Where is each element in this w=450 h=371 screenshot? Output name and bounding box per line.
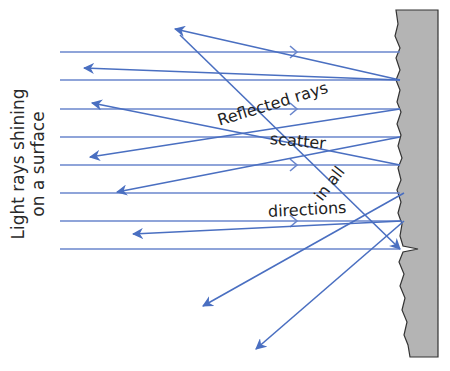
side-label: Light rays shining on a surface (8, 54, 48, 274)
diffuse-reflection-diagram (0, 0, 450, 371)
reflected-ray-arrow (133, 221, 402, 234)
reflected-rays (84, 29, 404, 349)
side-label-line2: on a surface (28, 54, 48, 274)
reflected-ray-arrow (256, 221, 404, 349)
rough-surface (395, 10, 438, 357)
side-label-line1: Light rays shining (8, 54, 28, 274)
